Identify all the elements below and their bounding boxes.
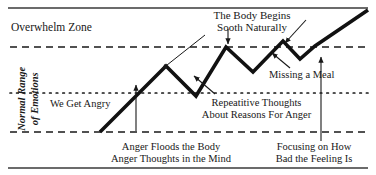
axis-label-normal-range-of-emotions: Normal Range of Emotions [16, 47, 42, 151]
label-focusing-on-how-bad-the-feeling-is: Focusing on How Bad the Feeling Is [258, 141, 370, 165]
emotion-wave-diagram: Overwhelm Zone Normal Range of Emotions … [0, 0, 376, 175]
repeatitive-line-2: About Reasons For Anger [190, 109, 323, 121]
label-anger-floods-the-body: Anger Floods the Body Anger Thoughts in … [102, 141, 240, 165]
label-repeatitive-thoughts-about-reasons-for-anger: Repeatitive Thoughts About Reasons For A… [190, 97, 323, 121]
anger-floods-line-2: Anger Thoughts in the Mind [102, 153, 240, 165]
label-overwhelm-zone: Overwhelm Zone [11, 21, 92, 34]
arrow-to-missing-a-meal [272, 53, 290, 68]
anger-floods-line-1: Anger Floods the Body [102, 141, 240, 153]
label-we-get-angry: We Get Angry [50, 98, 110, 110]
focusing-line-1: Focusing on How [258, 141, 370, 153]
body-begins-line-2: Sooth Naturally [200, 21, 304, 33]
axis-label-line-2: of Emotions [29, 47, 42, 151]
focusing-line-2: Bad the Feeling Is [258, 153, 370, 165]
axis-label-line-1: Normal Range [16, 47, 29, 151]
label-missing-a-meal: Missing a Meal [269, 69, 334, 81]
arrow-to-sooth-long [162, 35, 205, 69]
label-the-body-begins-sooth-naturally: The Body Begins Sooth Naturally [200, 9, 304, 34]
body-begins-line-1: The Body Begins [200, 9, 304, 21]
repeatitive-line-1: Repeatitive Thoughts [190, 97, 323, 109]
